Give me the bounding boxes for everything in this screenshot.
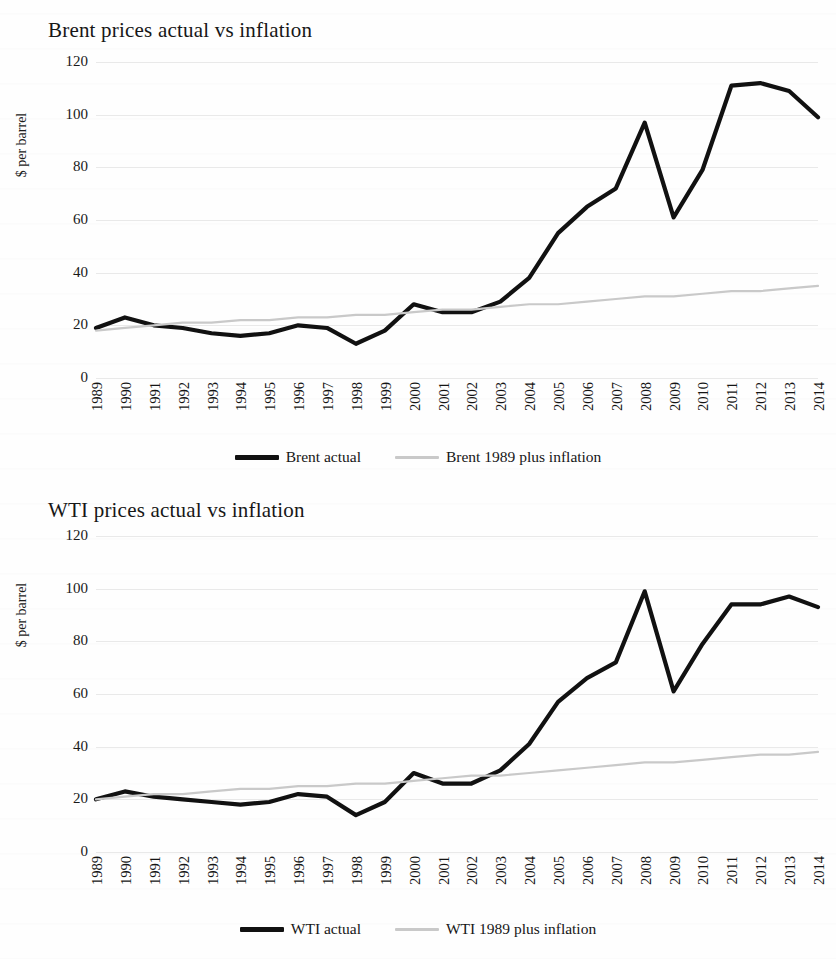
x-axis-tick-label: 1995 bbox=[262, 382, 279, 411]
legend-swatch-icon bbox=[395, 928, 439, 931]
series-line bbox=[96, 752, 818, 799]
x-axis-tick-label: 2002 bbox=[464, 382, 481, 411]
legend-swatch-icon bbox=[235, 455, 279, 460]
legend-swatch-icon bbox=[240, 927, 284, 932]
y-axis-tick-label: 120 bbox=[44, 53, 88, 70]
x-axis-tick-label: 1997 bbox=[320, 382, 337, 411]
y-axis-tick-label: 100 bbox=[44, 580, 88, 597]
y-axis-tick-label: 80 bbox=[44, 158, 88, 175]
legend-label: Brent actual bbox=[286, 448, 361, 466]
x-axis-tick-label: 2003 bbox=[493, 382, 510, 411]
x-axis-tick-label: 1997 bbox=[320, 856, 337, 885]
legend-label: WTI actual bbox=[291, 920, 361, 938]
x-axis-tick-label: 2014 bbox=[811, 856, 828, 885]
y-axis-title: $ per barrel bbox=[14, 75, 30, 215]
series-line bbox=[96, 591, 818, 815]
x-axis-tick-label: 1993 bbox=[205, 382, 222, 411]
x-axis-labels: 1989199019911992199319941995199619971998… bbox=[96, 856, 818, 926]
x-axis-tick-label: 1999 bbox=[378, 382, 395, 411]
x-axis-tick-label: 1993 bbox=[205, 856, 222, 885]
y-axis-tick-label: 40 bbox=[44, 738, 88, 755]
x-axis-tick-label: 2011 bbox=[724, 382, 741, 410]
document-page: Brent prices actual vs inflation $ per b… bbox=[0, 0, 836, 959]
x-axis-tick-label: 2007 bbox=[609, 856, 626, 885]
y-axis-tick-label: 20 bbox=[44, 790, 88, 807]
y-axis-tick-label: 80 bbox=[44, 632, 88, 649]
x-axis-tick-label: 2013 bbox=[782, 382, 799, 411]
x-axis-tick-label: 2009 bbox=[667, 382, 684, 411]
series-line bbox=[96, 286, 818, 331]
x-axis-tick-label: 1998 bbox=[349, 382, 366, 411]
gridline bbox=[96, 378, 818, 379]
x-axis-tick-label: 1996 bbox=[291, 382, 308, 411]
plot-area: 020406080100120 bbox=[96, 62, 818, 378]
x-axis-tick-label: 2006 bbox=[580, 382, 597, 411]
chart-wti: WTI prices actual vs inflation $ per bar… bbox=[0, 480, 836, 959]
x-axis-tick-label: 1994 bbox=[233, 382, 250, 411]
chart-lines bbox=[96, 536, 818, 852]
x-axis-tick-label: 2014 bbox=[811, 382, 828, 411]
x-axis-tick-label: 2002 bbox=[464, 856, 481, 885]
chart-legend: WTI actualWTI 1989 plus inflation bbox=[0, 920, 836, 938]
x-axis-tick-label: 2008 bbox=[638, 382, 655, 411]
x-axis-tick-label: 2009 bbox=[667, 856, 684, 885]
x-axis-tick-label: 2001 bbox=[436, 856, 453, 885]
series-line bbox=[96, 83, 818, 344]
plot-area: 020406080100120 bbox=[96, 536, 818, 852]
x-axis-tick-label: 1994 bbox=[233, 856, 250, 885]
x-axis-tick-label: 2011 bbox=[724, 856, 741, 884]
chart-title: WTI prices actual vs inflation bbox=[48, 498, 305, 523]
y-axis-tick-label: 60 bbox=[44, 211, 88, 228]
x-axis-labels: 1989199019911992199319941995199619971998… bbox=[96, 382, 818, 452]
x-axis-tick-label: 2008 bbox=[638, 856, 655, 885]
y-axis-tick-label: 20 bbox=[44, 316, 88, 333]
x-axis-tick-label: 1991 bbox=[147, 382, 164, 411]
y-axis-tick-label: 60 bbox=[44, 685, 88, 702]
x-axis-tick-label: 1989 bbox=[89, 382, 106, 411]
x-axis-tick-label: 2004 bbox=[522, 382, 539, 411]
x-axis-tick-label: 2000 bbox=[407, 382, 424, 411]
x-axis-tick-label: 2007 bbox=[609, 382, 626, 411]
legend-swatch-icon bbox=[395, 456, 439, 459]
x-axis-tick-label: 1996 bbox=[291, 856, 308, 885]
chart-brent: Brent prices actual vs inflation $ per b… bbox=[0, 0, 836, 480]
x-axis-tick-label: 2006 bbox=[580, 856, 597, 885]
y-axis-tick-label: 120 bbox=[44, 527, 88, 544]
x-axis-tick-label: 2010 bbox=[695, 856, 712, 885]
x-axis-tick-label: 1999 bbox=[378, 856, 395, 885]
x-axis-tick-label: 2001 bbox=[436, 382, 453, 411]
y-axis-tick-label: 0 bbox=[44, 369, 88, 386]
x-axis-tick-label: 1992 bbox=[176, 382, 193, 411]
y-axis-title: $ per barrel bbox=[14, 545, 30, 685]
x-axis-tick-label: 1991 bbox=[147, 856, 164, 885]
x-axis-tick-label: 2004 bbox=[522, 856, 539, 885]
x-axis-tick-label: 2010 bbox=[695, 382, 712, 411]
x-axis-tick-label: 2012 bbox=[753, 382, 770, 411]
chart-legend: Brent actualBrent 1989 plus inflation bbox=[0, 448, 836, 466]
x-axis-tick-label: 1992 bbox=[176, 856, 193, 885]
legend-item: Brent actual bbox=[235, 448, 361, 466]
x-axis-tick-label: 1998 bbox=[349, 856, 366, 885]
chart-lines bbox=[96, 62, 818, 378]
legend-item: Brent 1989 plus inflation bbox=[395, 448, 601, 466]
chart-title: Brent prices actual vs inflation bbox=[48, 18, 312, 43]
x-axis-tick-label: 2005 bbox=[551, 382, 568, 411]
x-axis-tick-label: 1989 bbox=[89, 856, 106, 885]
x-axis-tick-label: 1990 bbox=[118, 382, 135, 411]
x-axis-tick-label: 2005 bbox=[551, 856, 568, 885]
x-axis-tick-label: 2003 bbox=[493, 856, 510, 885]
y-axis-tick-label: 0 bbox=[44, 843, 88, 860]
y-axis-tick-label: 40 bbox=[44, 264, 88, 281]
legend-item: WTI 1989 plus inflation bbox=[395, 920, 596, 938]
y-axis-tick-label: 100 bbox=[44, 106, 88, 123]
x-axis-tick-label: 1995 bbox=[262, 856, 279, 885]
x-axis-tick-label: 2013 bbox=[782, 856, 799, 885]
x-axis-tick-label: 2012 bbox=[753, 856, 770, 885]
x-axis-tick-label: 2000 bbox=[407, 856, 424, 885]
legend-label: Brent 1989 plus inflation bbox=[446, 448, 601, 466]
legend-label: WTI 1989 plus inflation bbox=[446, 920, 596, 938]
x-axis-tick-label: 1990 bbox=[118, 856, 135, 885]
legend-item: WTI actual bbox=[240, 920, 361, 938]
gridline bbox=[96, 852, 818, 853]
